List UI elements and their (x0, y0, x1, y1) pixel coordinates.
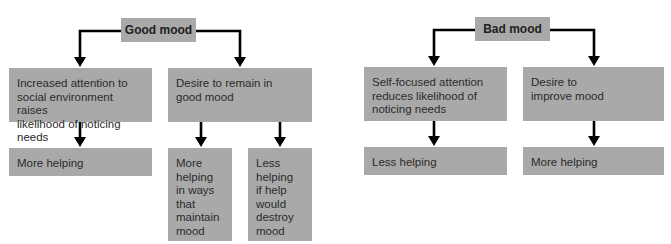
cause-line: Self-focused attention (372, 76, 499, 90)
outcome-line: destroy (256, 211, 305, 225)
less-helping-box: Less helping (364, 147, 507, 175)
outcome-line: mood (176, 225, 225, 239)
cause-line: likelihood of noticing needs (17, 118, 144, 145)
outcome-line: maintain (176, 211, 225, 225)
cause-line: Increased attention to (17, 77, 144, 91)
bad-mood-root: Bad mood (475, 17, 550, 41)
outcome-line: helping (256, 171, 305, 185)
cause-line: noticing needs (372, 103, 499, 117)
more-helping-box: More helping (523, 147, 664, 175)
cause-line: good mood (176, 91, 304, 105)
outcome-label: Less helping (372, 156, 499, 170)
good-mood-root: Good mood (121, 18, 196, 42)
outcome-line: if help (256, 184, 305, 198)
outcome-label: More helping (531, 156, 656, 170)
less-helping-destroy-mood-box: Less helping if help would destroy mood (248, 148, 312, 241)
cause-line: reduces likelihood of (372, 90, 499, 104)
outcome-line: in ways (176, 184, 225, 198)
desire-remain-good-mood-box: Desire to remain in good mood (168, 68, 312, 122)
outcome-label: More helping (17, 157, 144, 171)
outcome-line: mood (256, 225, 305, 239)
outcome-line: would (256, 198, 305, 212)
cause-line: improve mood (531, 90, 656, 104)
more-helping-box: More helping (9, 148, 152, 176)
outcome-line: helping (176, 171, 225, 185)
cause-line: social environment raises (17, 91, 144, 118)
outcome-line: that (176, 198, 225, 212)
cause-line: Desire to (531, 76, 656, 90)
outcome-line: Less (256, 157, 305, 171)
cause-line: Desire to remain in (176, 77, 304, 91)
desire-improve-mood-box: Desire to improve mood (523, 67, 664, 121)
self-focused-attention-box: Self-focused attention reduces likelihoo… (364, 67, 507, 121)
increased-attention-box: Increased attention to social environmen… (9, 68, 152, 122)
outcome-line: More (176, 157, 225, 171)
more-helping-maintain-mood-box: More helping in ways that maintain mood (168, 148, 232, 241)
